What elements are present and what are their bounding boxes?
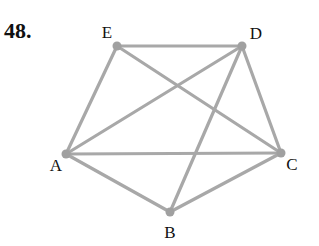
vertex-label-e: E [102,23,112,42]
graph-edges [66,46,281,212]
edge-b-c [170,153,281,212]
edge-d-c [242,46,281,153]
vertex-b [166,208,175,217]
vertex-label-b: B [164,223,175,242]
vertex-label-a: A [50,156,63,175]
diagram-canvas: 48. EDACB [0,0,319,246]
vertex-d [238,42,247,51]
vertex-c [277,149,286,158]
graph-vertices [62,42,286,217]
vertex-a [62,150,71,159]
edge-a-b [66,154,170,212]
graph: EDACB [0,0,319,246]
edge-d-b [170,46,242,212]
vertex-e [113,42,122,51]
edge-a-c [66,153,281,154]
vertex-label-c: C [286,155,297,174]
edge-e-c [117,46,281,153]
vertex-label-d: D [250,24,262,43]
